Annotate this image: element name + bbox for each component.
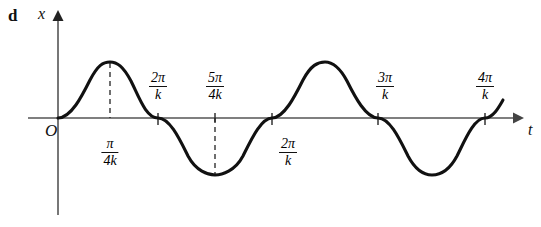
x-axis-label: t bbox=[528, 122, 532, 138]
origin-label: O bbox=[45, 122, 57, 139]
fraction-denominator: k bbox=[279, 153, 297, 169]
fraction: 2π k bbox=[149, 70, 167, 103]
axis-label-4pi-over-k: 4π k bbox=[476, 70, 494, 103]
fraction-denominator: k bbox=[149, 87, 167, 103]
axis-label-2pi-over-k-lower: 2π k bbox=[279, 136, 297, 169]
axis-ticks bbox=[158, 113, 485, 125]
fraction-denominator: k bbox=[376, 87, 394, 103]
y-axis bbox=[53, 10, 64, 215]
fraction-denominator: 4k bbox=[101, 153, 118, 169]
axis-label-2pi-over-k-first: 2π k bbox=[149, 70, 167, 103]
fraction: 4π k bbox=[476, 70, 494, 103]
fraction-numerator: 5π bbox=[206, 70, 224, 87]
fraction-numerator: 2π bbox=[149, 70, 167, 87]
fraction: 3π k bbox=[376, 70, 394, 103]
fraction: 2π k bbox=[279, 136, 297, 169]
y-axis-arrowhead bbox=[53, 10, 64, 21]
fraction-numerator: 3π bbox=[376, 70, 394, 87]
fraction-numerator: π bbox=[101, 136, 118, 153]
fraction-denominator: 4k bbox=[206, 87, 224, 103]
fraction-denominator: k bbox=[476, 87, 494, 103]
axis-label-pi-over-4k: π 4k bbox=[101, 136, 118, 169]
fraction: 5π 4k bbox=[206, 70, 224, 103]
fraction-numerator: 2π bbox=[279, 136, 297, 153]
fraction-numerator: 4π bbox=[476, 70, 494, 87]
x-axis-arrowhead bbox=[513, 113, 524, 124]
axis-label-3pi-over-k: 3π k bbox=[376, 70, 394, 103]
fraction: π 4k bbox=[101, 136, 118, 169]
part-letter: d bbox=[8, 7, 17, 24]
sine-graph-figure: d x t O 2π k 5π 4k 3π k 4π k π 4k bbox=[0, 0, 541, 227]
axis-label-5pi-over-4k: 5π 4k bbox=[206, 70, 224, 103]
graph-canvas bbox=[0, 0, 541, 227]
y-axis-label: x bbox=[38, 6, 45, 22]
